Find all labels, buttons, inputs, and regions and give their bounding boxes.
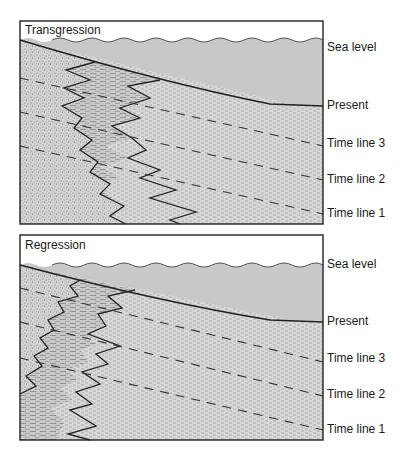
time-line-1-label: Time line 1	[327, 422, 385, 436]
time-line-1-label: Time line 1	[327, 206, 385, 220]
panel-title: Regression	[25, 238, 86, 252]
sea-level-label: Sea level	[327, 257, 376, 271]
sea-level-label: Sea level	[327, 40, 376, 54]
time-line-3-label: Time line 3	[327, 136, 385, 150]
time-line-2-label: Time line 2	[327, 387, 385, 401]
present-label: Present	[327, 314, 368, 328]
time-line-2-label: Time line 2	[327, 172, 385, 186]
present-label: Present	[327, 98, 368, 112]
regression-panel: Regression Sea level Present Time line 3…	[0, 230, 401, 465]
transgression-panel: Transgression Sea level Present Time lin…	[0, 0, 401, 230]
panel-title: Transgression	[25, 23, 101, 37]
time-line-3-label: Time line 3	[327, 351, 385, 365]
